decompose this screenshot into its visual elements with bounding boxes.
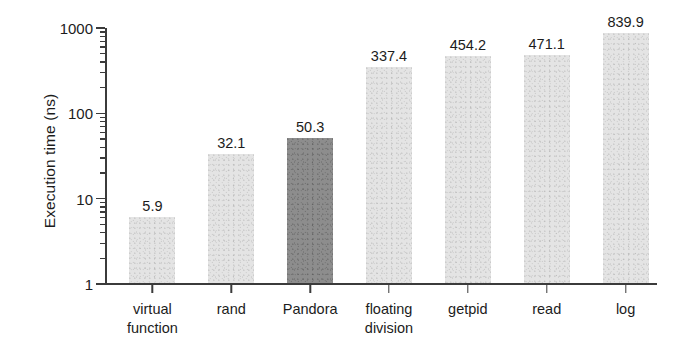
bar-chart-figure: Execution time (ns) 1000100101 5.932.150… xyxy=(0,0,687,342)
x-axis-line xyxy=(105,283,657,285)
bar-value-label: 839.9 xyxy=(607,14,643,30)
y-axis-minor-tick xyxy=(100,138,106,139)
y-axis-minor-tick xyxy=(100,87,106,88)
category-label-line: rand xyxy=(217,300,246,319)
bar-value-label: 5.9 xyxy=(142,198,162,214)
category-label-line: floating xyxy=(365,300,413,319)
y-axis-minor-tick xyxy=(100,121,106,122)
bar xyxy=(445,56,491,283)
y-axis-minor-tick xyxy=(100,224,106,225)
y-axis-minor-tick xyxy=(100,117,106,118)
bar xyxy=(129,217,175,283)
x-axis-category-label: getpid xyxy=(448,300,488,319)
category-label-line: read xyxy=(532,300,561,319)
x-axis-category-label: Pandora xyxy=(283,300,338,319)
bar-value-label: 32.1 xyxy=(217,135,245,151)
category-label-line: getpid xyxy=(448,300,488,319)
y-axis-minor-tick xyxy=(100,206,106,207)
bar-value-label: 337.4 xyxy=(371,48,407,64)
x-axis-category-label: virtualfunction xyxy=(127,300,178,338)
bar xyxy=(208,154,254,283)
y-axis-line xyxy=(105,28,107,284)
bar xyxy=(287,138,333,283)
y-axis-tick-label: 1 xyxy=(85,276,93,293)
category-label-line: Pandora xyxy=(283,300,338,319)
bar xyxy=(366,67,412,283)
category-label-line: log xyxy=(616,300,635,319)
x-axis-category-label: read xyxy=(532,300,561,319)
x-axis-tick xyxy=(152,284,153,293)
y-axis-minor-tick xyxy=(100,31,106,32)
y-axis-major-tick xyxy=(96,198,105,199)
y-axis-minor-tick xyxy=(100,258,106,259)
category-label-line: virtual xyxy=(127,300,178,319)
y-axis-minor-tick xyxy=(100,46,106,47)
y-axis-major-tick xyxy=(96,113,105,114)
y-axis-minor-tick xyxy=(100,172,106,173)
y-axis-minor-tick xyxy=(100,243,106,244)
y-axis-minor-tick xyxy=(100,72,106,73)
y-axis-minor-tick xyxy=(100,41,106,42)
y-axis-minor-tick xyxy=(100,211,106,212)
y-axis-title: Execution time (ns) xyxy=(41,46,59,276)
bar-value-label: 50.3 xyxy=(296,119,324,135)
bar xyxy=(524,55,570,283)
y-axis-major-tick xyxy=(96,27,105,28)
y-axis-minor-tick xyxy=(100,61,106,62)
y-axis-minor-tick xyxy=(100,232,106,233)
y-axis-minor-tick xyxy=(100,147,106,148)
y-axis-minor-tick xyxy=(100,157,106,158)
category-label-line: division xyxy=(365,319,413,338)
y-axis-minor-tick xyxy=(100,202,106,203)
y-axis-tick-label: 10 xyxy=(76,190,93,207)
y-axis-minor-tick xyxy=(100,217,106,218)
y-axis-tick-label: 1000 xyxy=(60,20,93,37)
x-axis-category-label: floatingdivision xyxy=(365,300,413,338)
y-axis-minor-tick xyxy=(100,36,106,37)
x-axis-tick xyxy=(467,284,468,293)
x-axis-tick xyxy=(309,284,310,293)
x-axis-category-label: rand xyxy=(217,300,246,319)
bar-value-label: 471.1 xyxy=(529,36,565,52)
y-axis-major-tick xyxy=(96,283,105,284)
category-label-line: function xyxy=(127,319,178,338)
y-axis-minor-tick xyxy=(100,53,106,54)
x-axis-tick xyxy=(231,284,232,293)
bar xyxy=(603,33,649,283)
bar-value-label: 454.2 xyxy=(450,37,486,53)
x-axis-tick xyxy=(546,284,547,293)
y-axis-tick-label: 100 xyxy=(68,105,93,122)
x-axis-category-label: log xyxy=(616,300,635,319)
x-axis-tick xyxy=(388,284,389,293)
y-axis-minor-tick xyxy=(100,132,106,133)
plot-area: 1000100101 5.932.150.3337.4454.2471.1839… xyxy=(105,28,657,284)
y-axis-minor-tick xyxy=(100,126,106,127)
x-axis-tick xyxy=(625,284,626,293)
